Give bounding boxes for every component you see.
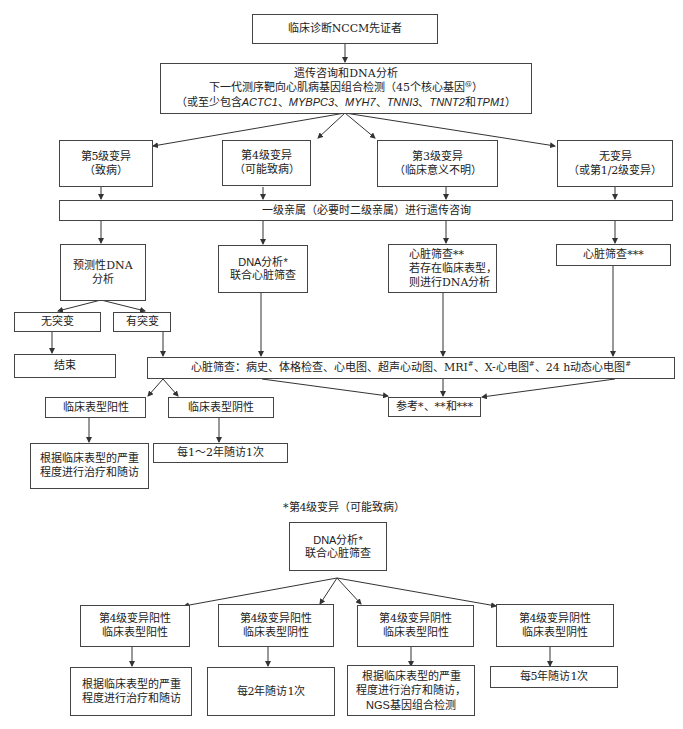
- class4-action-treat-follow: 根据临床表型的严重 程度进行治疗和随访: [70, 667, 192, 716]
- class3-vus-box: 第3级变异 （临床意义不明）: [377, 140, 498, 187]
- separator: 、: [278, 96, 289, 109]
- phenotype-positive-box: 临床表型阳性: [45, 397, 146, 418]
- action-line2: 程度进行治疗和随访，: [356, 684, 466, 698]
- no-mutation-box: 无突变: [14, 312, 101, 332]
- class4-action-treat-follow-ngs: 根据临床表型的严重 程度进行治疗和随访， NGS基因组合检测: [347, 665, 475, 716]
- genetic-testing-box: 遗传咨询和DNA分析 下一代测序靶向心肌病基因组合检测（45个核心基因@） （或…: [160, 63, 532, 114]
- ngs-panel-line: 下一代测序靶向心肌病基因组合检测（45个核心基因@）: [209, 81, 483, 95]
- has-mutation-label: 有突变: [126, 315, 159, 329]
- gene-list-prefix: （或至少包含: [176, 96, 242, 109]
- gene-list-close: ）: [505, 96, 516, 109]
- dna-analysis-cardiac-box: DNA分析* 联合心脏筛查: [218, 245, 308, 293]
- no-variant-label: 无变异: [599, 150, 632, 164]
- class3-desc: （临床意义不明）: [394, 164, 482, 178]
- no-mutation-label: 无突变: [41, 315, 74, 329]
- gene-myh7: MYH7: [345, 96, 376, 108]
- proband-label: 临床诊断NCCM先证者: [288, 22, 403, 36]
- dna-analysis-line1: DNA分析*: [238, 255, 288, 269]
- follow-up-1-2-years-box: 每1～2年随访1次: [153, 443, 288, 463]
- predictive-dna-line1: 预测性DNA: [73, 259, 132, 273]
- reference-box: 参考*、**和***: [388, 397, 481, 417]
- action-line1: 每5年随访1次: [520, 670, 589, 684]
- class4-dna-line1: DNA分析*: [313, 533, 363, 547]
- end-label: 结束: [54, 359, 76, 373]
- action-line3: NGS基因组合检测: [366, 698, 456, 712]
- proband-box: 临床诊断NCCM先证者: [252, 14, 438, 44]
- class4-outcome-pos-pos: 第4级变异阳性 临床表型阳性: [80, 605, 190, 647]
- cardiac-vus-line3: 则进行DNA分析: [409, 276, 490, 290]
- outcome-line1: 第4级变异阴性: [519, 612, 592, 626]
- class4-outcome-pos-neg: 第4级变异阳性 临床表型阴性: [218, 604, 334, 647]
- phenotype-positive-label: 临床表型阳性: [63, 401, 129, 415]
- footnote-mark: #: [625, 360, 631, 368]
- phenotype-negative-box: 临床表型阴性: [168, 397, 274, 418]
- cardiac-screening-text: 心脏筛查：病史、体格检查、心电图、超声心动图、MRI: [191, 361, 468, 374]
- predictive-dna-box: 预测性DNA 分析: [60, 244, 146, 301]
- core-genes-footnote-mark: @: [465, 80, 472, 88]
- separator: 、: [376, 96, 387, 109]
- gene-list-line: （或至少包含ACTC1、MYBPC3、MYH7、TNNI3、TNNT2和TPM1…: [176, 95, 516, 110]
- outcome-line1: 第4级变异阴性: [379, 612, 452, 626]
- treat-follow-line1: 根据临床表型的严重: [40, 452, 139, 466]
- class4-action-follow-5-years: 每5年随访1次: [490, 666, 618, 688]
- gene-actc1: ACTC1: [242, 96, 278, 108]
- predictive-dna-line2: 分析: [92, 273, 114, 287]
- cardiac-vus-line1: 心脏筛查**: [409, 248, 464, 262]
- gene-tnnt2: TNNT2: [429, 96, 464, 108]
- cardiac-no-variant-label: 心脏筛查***: [583, 248, 644, 262]
- cardiac-screening-no-variant-box: 心脏筛查***: [556, 244, 671, 266]
- action-line1: 根据临床表型的严重: [82, 678, 181, 692]
- no-variant-desc: （或第1/2级变异）: [568, 164, 663, 178]
- class4-outcome-neg-neg: 第4级变异阴性 临床表型阴性: [496, 604, 614, 647]
- treat-follow-line2: 程度进行治疗和随访: [40, 466, 139, 480]
- gene-tpm1: TPM1: [476, 96, 505, 108]
- class4-desc: （可能致病）: [234, 163, 300, 177]
- reference-label: 参考*、**和***: [396, 400, 473, 414]
- class5-label: 第5级变异: [81, 150, 132, 164]
- cardiac-vus-line2: 若存在临床表型，: [409, 262, 497, 276]
- no-variant-box: 无变异 （或第1/2级变异）: [557, 140, 673, 187]
- class5-pathogenic-box: 第5级变异 （致病）: [59, 140, 153, 187]
- end-box: 结束: [14, 354, 116, 378]
- class4-likely-pathogenic-box: 第4级变异 （可能致病）: [222, 140, 311, 186]
- cardiac-screening-bar: 心脏筛查：病史、体格检查、心电图、超声心动图、MRI#、X-心电图#、24 h动…: [147, 357, 675, 379]
- outcome-line2: 临床表型阴性: [522, 626, 588, 640]
- relatives-counseling-bar: 一级亲属（必要时二级亲属）进行遗传咨询: [59, 200, 673, 221]
- gene-tnni3: TNNI3: [387, 96, 419, 108]
- outcome-line1: 第4级变异阳性: [99, 612, 172, 626]
- gene-mybpc3: MYBPC3: [289, 96, 334, 108]
- has-mutation-box: 有突变: [113, 312, 171, 332]
- class4-outcome-neg-pos: 第4级变异阴性 临床表型阳性: [357, 605, 474, 647]
- phenotype-negative-label: 临床表型阴性: [188, 401, 254, 415]
- treat-follow-box: 根据临床表型的严重 程度进行治疗和随访: [30, 443, 149, 489]
- ngs-panel-text: 下一代测序靶向心肌病基因组合检测（45个核心基因: [209, 81, 465, 94]
- genetic-testing-title: 遗传咨询和DNA分析: [294, 67, 397, 81]
- action-line1: 每2年随访1次: [237, 685, 306, 699]
- ngs-panel-close: ）: [472, 81, 483, 94]
- dna-analysis-line2: 联合心脏筛查: [230, 269, 296, 283]
- conjunction: 和: [465, 96, 476, 109]
- cardiac-screening-text: 、24 h动态心电图: [535, 361, 626, 374]
- cardiac-screening-vus-box: 心脏筛查** 若存在临床表型， 则进行DNA分析: [388, 244, 497, 293]
- class4-dna-line2: 联合心脏筛查: [305, 547, 371, 561]
- follow-up-1-2-label: 每1～2年随访1次: [177, 446, 264, 460]
- cardiac-screening-text: 、X-心电图: [474, 361, 529, 374]
- class3-label: 第3级变异: [412, 150, 463, 164]
- outcome-line2: 临床表型阴性: [243, 626, 309, 640]
- class5-desc: （致病）: [84, 164, 128, 178]
- outcome-line2: 临床表型阳性: [383, 626, 449, 640]
- class4-action-follow-2-years: 每2年随访1次: [207, 667, 335, 716]
- class4-label: 第4级变异: [241, 149, 292, 163]
- class4-dna-analysis-box: DNA分析* 联合心脏筛查: [289, 522, 387, 571]
- outcome-line1: 第4级变异阳性: [240, 612, 313, 626]
- action-line2: 程度进行治疗和随访: [82, 692, 181, 706]
- outcome-line2: 临床表型阳性: [102, 626, 168, 640]
- cardiac-screening-label: 心脏筛查：病史、体格检查、心电图、超声心动图、MRI#、X-心电图#、24 h动…: [191, 361, 631, 375]
- separator: 、: [334, 96, 345, 109]
- separator: 、: [418, 96, 429, 109]
- relatives-counseling-label: 一级亲属（必要时二级亲属）进行遗传咨询: [262, 204, 471, 218]
- footnote-title: *第4级变异（可能致病）: [283, 498, 406, 514]
- action-line1: 根据临床表型的严重: [362, 670, 461, 684]
